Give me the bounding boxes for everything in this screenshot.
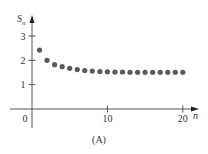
data-point: [82, 68, 87, 73]
scatter-chart: 01020123 Sn n (A): [0, 0, 208, 154]
x-tick-label: 20: [178, 113, 188, 124]
ticks: 01020123: [21, 31, 188, 124]
data-point: [120, 69, 125, 74]
data-point: [52, 62, 57, 67]
data-point: [112, 69, 117, 74]
data-point: [105, 69, 110, 74]
data-point: [180, 70, 185, 75]
y-tick-label: 1: [21, 79, 26, 90]
chart-caption: (A): [92, 134, 106, 146]
data-point: [143, 70, 148, 75]
data-point: [173, 70, 178, 75]
data-point: [135, 70, 140, 75]
x-tick-label: 0: [23, 113, 28, 124]
data-point: [75, 67, 80, 72]
data-point: [60, 64, 65, 69]
y-axis-label: Sn: [17, 13, 26, 27]
axes: [10, 15, 199, 128]
data-points: [37, 48, 185, 75]
data-point: [150, 70, 155, 75]
data-point: [67, 66, 72, 71]
data-point: [165, 70, 170, 75]
x-tick-label: 10: [102, 113, 112, 124]
data-point: [44, 58, 49, 63]
y-axis-arrow-icon: [30, 15, 35, 23]
x-axis-label: n: [193, 110, 198, 121]
data-point: [37, 48, 42, 53]
data-point: [90, 68, 95, 73]
data-point: [158, 70, 163, 75]
data-point: [127, 70, 132, 75]
data-point: [97, 69, 102, 74]
y-tick-label: 3: [21, 31, 26, 42]
y-tick-label: 2: [21, 55, 26, 66]
